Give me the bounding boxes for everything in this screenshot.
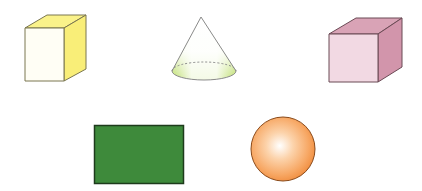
orange-sphere <box>251 117 315 181</box>
cone <box>172 17 236 80</box>
green-rectangle <box>95 126 184 184</box>
shapes-diagram <box>0 0 422 191</box>
yellow-cube <box>25 15 86 81</box>
pink-cube <box>329 18 402 82</box>
